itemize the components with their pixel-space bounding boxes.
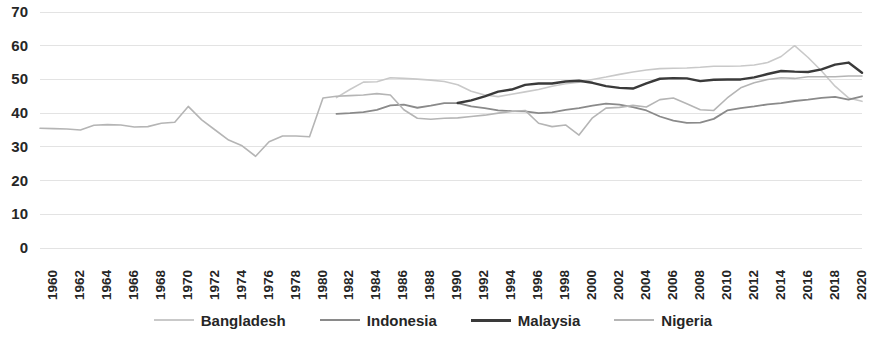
y-axis-label-60: 60 bbox=[0, 37, 28, 54]
y-axis-label-30: 30 bbox=[0, 138, 28, 155]
x-axis-label-1966: 1966 bbox=[126, 270, 141, 300]
legend-label-bangladesh: Bangladesh bbox=[201, 312, 286, 329]
x-axis-label-1996: 1996 bbox=[530, 270, 545, 300]
x-axis-label-1972: 1972 bbox=[207, 270, 222, 300]
x-axis-label-1968: 1968 bbox=[153, 270, 168, 300]
x-axis-label-1974: 1974 bbox=[234, 270, 249, 300]
x-axis-label-2016: 2016 bbox=[800, 270, 815, 300]
x-axis-label-1992: 1992 bbox=[476, 270, 491, 300]
y-axis-label-10: 10 bbox=[0, 205, 28, 222]
chart-legend: BangladeshIndonesiaMalaysiaNigeria bbox=[0, 306, 866, 334]
legend-swatch-malaysia bbox=[471, 319, 511, 322]
legend-item-nigeria[interactable]: Nigeria bbox=[614, 312, 712, 329]
x-axis-label-1964: 1964 bbox=[99, 270, 114, 300]
x-axis-label-1962: 1962 bbox=[72, 270, 87, 300]
series-line-nigeria bbox=[40, 76, 862, 156]
x-axis-label-1982: 1982 bbox=[341, 270, 356, 300]
x-axis-label-2006: 2006 bbox=[665, 270, 680, 300]
data-series-group bbox=[40, 46, 862, 157]
x-axis-label-1976: 1976 bbox=[261, 270, 276, 300]
x-axis-label-2020: 2020 bbox=[854, 270, 869, 300]
x-axis-label-1998: 1998 bbox=[557, 270, 572, 300]
y-axis-label-20: 20 bbox=[0, 172, 28, 189]
legend-item-bangladesh[interactable]: Bangladesh bbox=[154, 312, 286, 329]
x-axis-label-2014: 2014 bbox=[773, 270, 788, 300]
x-axis-label-2010: 2010 bbox=[719, 270, 734, 300]
x-axis-label-1960: 1960 bbox=[45, 270, 60, 300]
x-axis-label-1990: 1990 bbox=[449, 270, 464, 300]
x-axis-label-1970: 1970 bbox=[180, 270, 195, 300]
x-axis-label-2018: 2018 bbox=[827, 270, 842, 300]
x-axis-label-1986: 1986 bbox=[395, 270, 410, 300]
legend-label-indonesia: Indonesia bbox=[367, 312, 437, 329]
x-axis-label-1984: 1984 bbox=[368, 270, 383, 300]
y-axis-label-0: 0 bbox=[0, 239, 28, 256]
legend-swatch-indonesia bbox=[320, 319, 360, 321]
y-axis-label-40: 40 bbox=[0, 104, 28, 121]
legend-item-malaysia[interactable]: Malaysia bbox=[471, 312, 581, 329]
x-axis-label-1988: 1988 bbox=[422, 270, 437, 300]
legend-item-indonesia[interactable]: Indonesia bbox=[320, 312, 437, 329]
legend-label-nigeria: Nigeria bbox=[661, 312, 712, 329]
x-axis-label-2012: 2012 bbox=[746, 270, 761, 300]
y-axis-label-50: 50 bbox=[0, 70, 28, 87]
legend-label-malaysia: Malaysia bbox=[518, 312, 581, 329]
legend-swatch-nigeria bbox=[614, 319, 654, 321]
x-axis-label-1980: 1980 bbox=[315, 270, 330, 300]
series-line-indonesia bbox=[336, 96, 862, 123]
legend-swatch-bangladesh bbox=[154, 319, 194, 321]
x-axis-label-2008: 2008 bbox=[692, 270, 707, 300]
series-line-bangladesh bbox=[336, 46, 862, 102]
y-axis-label-70: 70 bbox=[0, 3, 28, 20]
x-axis-label-1994: 1994 bbox=[503, 270, 518, 300]
x-axis-label-2002: 2002 bbox=[611, 270, 626, 300]
x-axis-label-1978: 1978 bbox=[288, 270, 303, 300]
x-axis-label-2000: 2000 bbox=[584, 270, 599, 300]
gridlines bbox=[40, 12, 862, 248]
x-axis-label-2004: 2004 bbox=[638, 270, 653, 300]
